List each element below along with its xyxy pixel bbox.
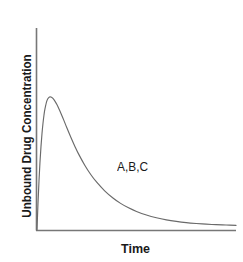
curve-label-abc: A,B,C [117, 160, 148, 174]
plot-area [0, 0, 243, 262]
x-axis-label: Time [36, 242, 235, 256]
pharmacokinetic-figure: Unbound Drug Concentration Time A,B,C [0, 0, 243, 262]
y-axis-label: Unbound Drug Concentration [20, 54, 34, 218]
